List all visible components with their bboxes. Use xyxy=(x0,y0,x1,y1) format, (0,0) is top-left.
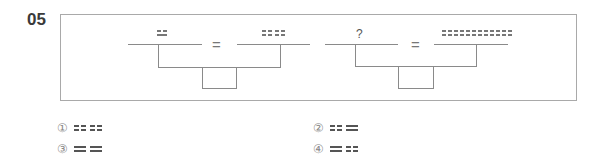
answer-box xyxy=(202,67,237,89)
option-symbol xyxy=(74,125,102,131)
unknown-mark: ? xyxy=(356,27,363,41)
digram-icon xyxy=(275,30,285,36)
equals-sign: = xyxy=(411,37,420,52)
fraction-line xyxy=(237,44,310,45)
digram-icon xyxy=(442,30,452,36)
digram-icon xyxy=(330,125,342,131)
bracket-line xyxy=(355,44,356,66)
bracket-line xyxy=(476,44,477,66)
answer-box xyxy=(398,66,434,89)
bracket-line xyxy=(280,44,281,67)
digram-icon xyxy=(330,146,342,152)
bracket-line xyxy=(158,44,159,67)
digram-icon xyxy=(454,30,464,36)
left-numerator-symbol xyxy=(157,30,167,36)
digram-icon xyxy=(466,30,476,36)
digram-icon xyxy=(90,146,102,152)
digram-icon xyxy=(490,30,500,36)
option-label: ④ xyxy=(313,142,324,156)
option-label: ② xyxy=(313,121,324,135)
option-symbol xyxy=(330,125,358,131)
fraction-line xyxy=(434,44,508,45)
digram-icon xyxy=(346,146,358,152)
option-label: ① xyxy=(57,121,68,135)
right-numerator-symbol xyxy=(442,30,512,36)
digram-icon xyxy=(346,125,358,131)
digram-icon xyxy=(478,30,488,36)
digram-icon xyxy=(90,125,102,131)
option-4[interactable]: ④ xyxy=(313,142,358,156)
option-symbol xyxy=(74,146,102,152)
right-numerator-symbol xyxy=(262,30,285,36)
digram-icon xyxy=(74,125,86,131)
digram-icon xyxy=(262,30,272,36)
option-3[interactable]: ③ xyxy=(57,142,102,156)
option-label: ③ xyxy=(57,142,68,156)
equals-sign: = xyxy=(212,37,221,52)
fraction-line xyxy=(128,44,202,45)
option-symbol xyxy=(330,146,358,152)
digram-icon xyxy=(74,146,86,152)
digram-icon xyxy=(502,30,512,36)
option-2[interactable]: ② xyxy=(313,121,358,135)
option-1[interactable]: ① xyxy=(57,121,102,135)
problem-box xyxy=(60,14,577,101)
fraction-line xyxy=(325,44,398,45)
digram-icon xyxy=(157,30,167,36)
question-number: 05 xyxy=(27,10,46,30)
